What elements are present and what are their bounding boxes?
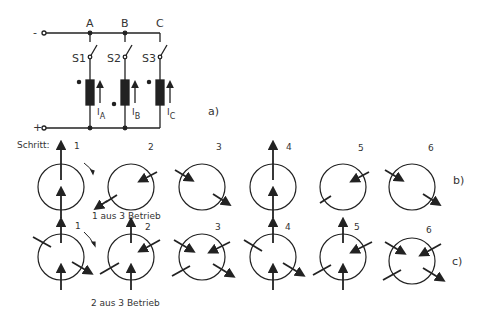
switch-s1: S1 [72, 52, 86, 65]
label-b: b) [453, 174, 464, 187]
node-c: C [156, 17, 164, 30]
row-c-rotors [33, 222, 441, 290]
caption-c: 2 aus 3 Betrieb [91, 298, 160, 308]
node-b: B [121, 17, 129, 30]
label-a: a) [208, 105, 219, 118]
current-ia: IA [97, 107, 106, 121]
step-b6: 6 [428, 143, 434, 153]
rotor-c6 [389, 238, 435, 284]
label-c: c) [452, 255, 462, 268]
step-c3: 3 [215, 222, 221, 232]
step-prefix: Schritt: [17, 140, 50, 150]
row-b-rotors [38, 145, 437, 218]
rotor-b2 [108, 164, 154, 210]
rotor-b6 [389, 164, 435, 210]
terminal-plus: + [33, 121, 42, 134]
step-b4: 4 [286, 142, 292, 152]
rotor-b3 [179, 164, 225, 210]
step-b3: 3 [216, 142, 222, 152]
switch-s3: S3 [142, 52, 156, 65]
stepper-motor-diagram: - + A B C S1 S2 S3 IA IB IC a) [0, 0, 489, 324]
caption-b: 1 aus 3 Betrieb [92, 211, 161, 221]
step-c5: 5 [354, 222, 360, 232]
node-a: A [86, 17, 94, 30]
step-c4: 4 [285, 222, 291, 232]
switch-s2: S2 [107, 52, 121, 65]
circuit-schematic [42, 31, 170, 130]
terminal-minus: - [33, 26, 37, 39]
step-c2: 2 [145, 222, 151, 232]
step-b5: 5 [358, 143, 364, 153]
step-b1: 1 [74, 141, 80, 151]
rotor-b5 [320, 164, 366, 210]
step-c6: 6 [426, 225, 432, 235]
current-ic: IC [167, 107, 176, 121]
rotor-c3 [179, 234, 225, 280]
step-b2: 2 [148, 142, 154, 152]
current-ib: IB [132, 107, 140, 121]
step-c1: 1 [75, 221, 81, 231]
